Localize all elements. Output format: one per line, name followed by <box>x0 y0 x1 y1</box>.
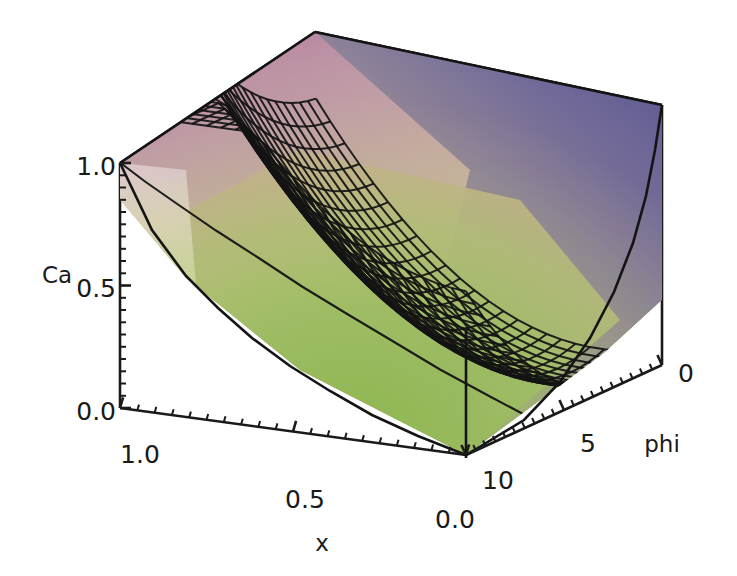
minor-tick <box>630 373 633 379</box>
phi-tick-label-5: 5 <box>580 429 596 458</box>
x-axis-label: x <box>315 530 329 556</box>
ca-axis-label: Ca <box>42 262 72 288</box>
major-tick <box>293 421 296 432</box>
x-tick-label-3: 0.0 <box>435 505 475 534</box>
minor-tick <box>532 418 535 424</box>
phi-axis-label: phi <box>644 431 680 457</box>
x-tick-label-2: 0.5 <box>285 485 325 514</box>
phi-tick-label-10: 10 <box>482 466 514 495</box>
minor-tick <box>513 427 516 433</box>
minor-tick <box>552 409 555 415</box>
minor-tick <box>591 391 594 397</box>
minor-tick <box>601 387 604 393</box>
x-tick-label-1: 1.0 <box>120 440 160 469</box>
minor-tick <box>542 414 545 420</box>
ca-axis-tick-labels: 1.0 0.5 0.0 <box>76 152 116 426</box>
surface-valley-tint <box>90 20 690 490</box>
major-tick <box>559 400 564 410</box>
surface-mesh <box>90 20 690 490</box>
surface-plot-3d: 1.0 0.5 0.0 1.0 0.5 0.0 10 5 0 Ca x phi <box>0 0 737 576</box>
x-axis-tick-labels: 1.0 0.5 0.0 <box>120 440 475 534</box>
ca-tick-label-1: 1.0 <box>76 152 116 181</box>
minor-tick <box>611 382 614 388</box>
phi-tick-label-0: 0 <box>678 359 694 388</box>
ca-tick-label-3: 0.0 <box>76 397 116 426</box>
minor-tick <box>571 400 574 406</box>
minor-tick <box>522 423 525 429</box>
ca-tick-label-2: 0.5 <box>76 274 116 303</box>
minor-tick <box>620 378 623 384</box>
minor-tick <box>581 396 584 402</box>
minor-tick <box>640 369 643 375</box>
minor-tick <box>650 364 653 370</box>
figure-canvas: 1.0 0.5 0.0 1.0 0.5 0.0 10 5 0 Ca x phi <box>0 0 737 576</box>
